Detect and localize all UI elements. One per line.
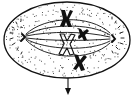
right-centriole <box>112 35 115 42</box>
chromosome-right <box>78 28 89 41</box>
down-arrow-icon <box>65 78 71 95</box>
diagram-canvas <box>0 0 135 96</box>
chromosome-top <box>60 10 73 27</box>
chromosome-bottom <box>73 54 87 71</box>
left-centriole <box>21 34 25 41</box>
metaphase-cell-diagram: cell-division-metaphase <box>0 0 135 96</box>
astral-rays-left <box>10 19 22 54</box>
